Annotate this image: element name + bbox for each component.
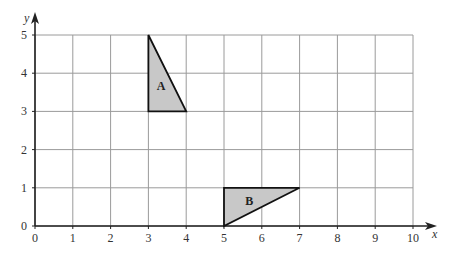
- y-tick-label: 4: [21, 66, 27, 80]
- y-tick-label: 1: [21, 181, 27, 195]
- triangle-b-label: B: [245, 194, 253, 208]
- y-tick-label: 0: [21, 219, 27, 233]
- y-axis-label: y: [23, 11, 30, 25]
- x-tick-label: 3: [145, 231, 151, 245]
- y-tick-label: 3: [21, 104, 27, 118]
- x-tick-label: 1: [70, 231, 76, 245]
- x-tick-label: 2: [108, 231, 114, 245]
- y-tick-label: 5: [21, 28, 27, 42]
- x-tick-label: 7: [297, 231, 303, 245]
- x-tick-label: 4: [183, 231, 189, 245]
- x-tick-label: 8: [334, 231, 340, 245]
- x-tick-label: 9: [372, 231, 378, 245]
- x-tick-label: 10: [407, 231, 419, 245]
- y-tick-label: 2: [21, 143, 27, 157]
- grid-plot: 012345678910012345xyAB: [0, 0, 451, 263]
- x-tick-label: 6: [259, 231, 265, 245]
- coordinate-grid-diagram: 012345678910012345xyAB: [0, 0, 451, 263]
- triangle-a-label: A: [157, 79, 166, 93]
- x-tick-label: 5: [221, 231, 227, 245]
- x-tick-label: 0: [32, 231, 38, 245]
- x-axis-label: x: [431, 227, 438, 241]
